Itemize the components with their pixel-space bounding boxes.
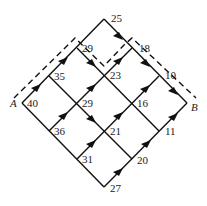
node-label: 10 [165, 69, 177, 81]
arrow-up-right-icon [113, 57, 123, 65]
node-label: 16 [137, 97, 149, 109]
arrow-up-right-icon [113, 112, 123, 120]
node-label: 18 [139, 42, 151, 54]
end-label: B [191, 101, 198, 113]
start-label: A [9, 97, 17, 109]
grid-edges [22, 19, 187, 187]
node-label: 25 [111, 12, 123, 24]
node-label: 35 [54, 70, 66, 82]
node-label: 36 [54, 125, 66, 137]
node-label: 11 [165, 125, 176, 137]
node-label: 27 [110, 182, 122, 194]
arrow-down-right-icon [86, 59, 96, 67]
node-label: 29 [82, 42, 94, 54]
network-diagram: A 40 35 29 25 36 29 23 18 31 21 16 10 27… [0, 0, 207, 206]
arrow-down-right-icon [140, 59, 150, 67]
node-label: 31 [82, 153, 93, 165]
arrowheads [31, 32, 178, 176]
arrow-down-right-icon [86, 115, 96, 123]
arrow-up-right-icon [140, 85, 150, 93]
node-label: 23 [110, 69, 122, 81]
arrow-up-right-icon [113, 168, 123, 176]
node-label: 21 [110, 125, 121, 137]
node-label: 29 [82, 97, 94, 109]
highlighted-path [14, 38, 196, 98]
node-labels: A 40 35 29 25 36 29 23 18 31 21 16 10 27… [9, 12, 198, 194]
arrow-up-right-icon [58, 112, 68, 120]
node-label: 40 [27, 97, 39, 109]
arrow-up-right-icon [86, 140, 96, 148]
node-label: 20 [137, 154, 149, 166]
arrow-up-right-icon [141, 140, 151, 148]
arrow-up-right-icon [31, 84, 41, 92]
arrow-up-right-icon [86, 84, 96, 92]
arrow-down-right-icon [168, 87, 178, 95]
